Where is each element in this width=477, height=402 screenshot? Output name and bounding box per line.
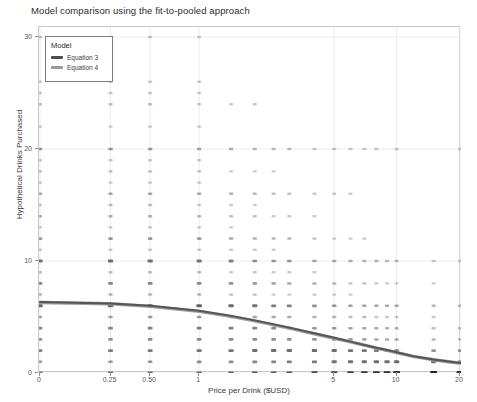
chart-title: Model comparison using the fit-to-pooled… <box>31 5 250 16</box>
x-tick-mark <box>39 372 40 376</box>
y-axis-label: Hypothetical Drinks Purchased <box>15 60 24 270</box>
x-tick-mark <box>110 372 111 376</box>
x-tick-mark <box>459 372 460 376</box>
y-tick-label: 30 <box>10 33 32 40</box>
y-tick-mark <box>35 372 38 373</box>
x-tick-label: 0 <box>22 376 56 383</box>
legend-item-label: Equation 3 <box>67 54 98 61</box>
legend-swatch-icon <box>51 56 63 59</box>
y-tick-label: 0 <box>10 369 32 376</box>
legend-item-label: Equation 4 <box>67 64 98 71</box>
y-tick-mark <box>35 148 38 149</box>
x-tick-label: 10 <box>379 376 413 383</box>
legend-item-2: Equation 4 <box>51 64 107 71</box>
x-tick-label: 5 <box>316 376 350 383</box>
legend-swatch-icon <box>51 66 63 69</box>
legend: Model Equation 3Equation 4 <box>45 36 113 82</box>
x-tick-mark <box>149 372 150 376</box>
x-tick-label: 0.25 <box>93 376 127 383</box>
scatter-points <box>39 36 461 373</box>
x-tick-label: 1 <box>181 376 215 383</box>
chart-screenshot: Model comparison using the fit-to-pooled… <box>0 0 477 402</box>
legend-entries: Equation 3Equation 4 <box>51 54 107 71</box>
legend-title: Model <box>51 41 107 50</box>
y-tick-mark <box>35 260 38 261</box>
x-tick-label: 20 <box>442 376 476 383</box>
x-axis-label: Price per Drink ($USD) <box>139 386 359 395</box>
x-tick-mark <box>333 372 334 376</box>
x-tick-label: 0.50 <box>132 376 166 383</box>
legend-item-1: Equation 3 <box>51 54 107 61</box>
x-tick-mark <box>396 372 397 376</box>
y-tick-mark <box>35 36 38 37</box>
x-tick-mark <box>198 372 199 376</box>
